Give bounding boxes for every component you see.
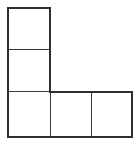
polyomino-figure xyxy=(0,0,138,145)
outline-column-right-edge xyxy=(49,7,51,92)
outline-top-edge xyxy=(7,7,51,9)
outline-left-edge xyxy=(7,7,9,138)
outline-bottom-edge xyxy=(7,136,133,138)
polyomino-cell xyxy=(7,7,51,50)
polyomino-cell xyxy=(7,49,51,92)
polyomino-cell xyxy=(50,91,92,138)
polyomino-cell xyxy=(91,91,133,138)
outline-row-top-edge xyxy=(49,91,133,93)
polyomino-cell xyxy=(7,91,51,138)
outline-right-edge xyxy=(131,91,133,138)
